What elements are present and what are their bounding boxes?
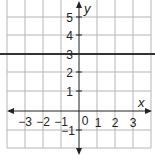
x-tick-label: −3 xyxy=(18,115,32,129)
x-tick-label: −1 xyxy=(54,115,68,129)
arrow-up-icon xyxy=(76,1,82,8)
y-tick-label: 4 xyxy=(66,29,73,43)
coordinate-plane: 5 4 3 2 1 −1 −3 −2 −1 0 1 2 3 y x xyxy=(0,0,155,159)
x-tick-label: 2 xyxy=(112,116,119,130)
y-tick-label: 1 xyxy=(66,85,73,99)
arrow-left-icon xyxy=(7,108,14,114)
y-tick-label: 5 xyxy=(66,11,73,25)
x-tick-label: 3 xyxy=(130,116,137,130)
x-axis-label: x xyxy=(137,95,145,110)
x-tick-label: 0 xyxy=(82,114,89,128)
y-axis-label: y xyxy=(83,1,92,16)
y-axis xyxy=(76,1,82,155)
y-tick-label: 3 xyxy=(66,48,73,62)
x-tick-label: −2 xyxy=(36,115,50,129)
x-tick-label: 1 xyxy=(95,116,102,130)
y-tick-label: 2 xyxy=(66,66,73,80)
arrow-down-icon xyxy=(76,148,82,155)
